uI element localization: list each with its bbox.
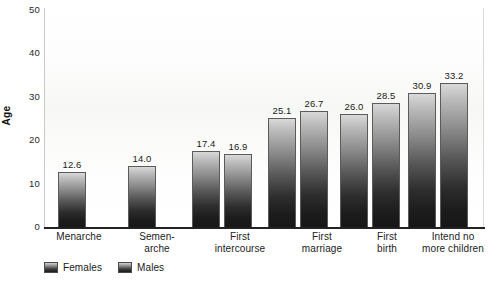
bar-value-intend-no-more-females: 30.9	[404, 81, 440, 91]
bar-value-first-birth-females: 26.0	[336, 102, 372, 112]
legend-item-females: Females	[44, 262, 102, 273]
bar-value-menarche-females: 12.6	[54, 160, 90, 170]
bar-value-first-birth-males: 28.5	[368, 91, 404, 101]
bar-value-first-marriage-females: 25.1	[264, 106, 300, 116]
bar-intend-no-more-males	[440, 83, 468, 227]
bar-value-first-intercourse-females: 17.4	[188, 139, 224, 149]
legend-swatch-males	[118, 262, 132, 273]
legend-label-males: Males	[137, 262, 164, 273]
legend-label-females: Females	[63, 262, 102, 273]
bar-first-birth-males	[372, 103, 400, 227]
bar-value-first-intercourse-males: 16.9	[220, 142, 256, 152]
bar-chart: 50 40 30 20 10 0 Age 12.614.017.416.925.…	[0, 0, 490, 289]
x-label-intend-no-more: Intend no more children	[382, 231, 490, 254]
bar-first-intercourse-males	[224, 154, 252, 227]
legend-swatch-females	[44, 262, 58, 273]
bar-value-semenarche-males: 14.0	[124, 154, 160, 164]
bar-value-first-marriage-males: 26.7	[296, 99, 332, 109]
bar-first-marriage-males	[300, 111, 328, 227]
bar-intend-no-more-females	[408, 93, 436, 227]
bar-menarche-females	[58, 172, 86, 227]
x-label-semenarche: Semen- arche	[120, 231, 194, 254]
bar-semenarche-males	[128, 166, 156, 227]
x-label-menarche: Menarche	[38, 231, 120, 243]
bar-first-marriage-females	[268, 118, 296, 227]
bar-value-intend-no-more-males: 33.2	[436, 71, 472, 81]
legend-item-males: Males	[118, 262, 164, 273]
chart-legend: Females Males	[44, 262, 173, 273]
bar-first-intercourse-females	[192, 151, 220, 227]
bar-first-birth-females	[340, 114, 368, 227]
